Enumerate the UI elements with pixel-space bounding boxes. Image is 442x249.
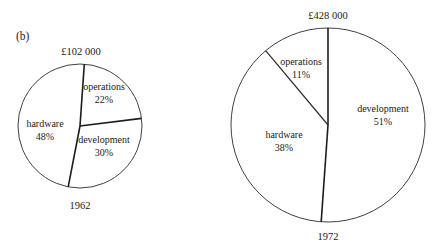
figure-panel: (b) £102 000 operations 22% development … bbox=[0, 0, 442, 249]
slice-name-operations-1972: operations bbox=[280, 56, 322, 67]
slice-pct-development-1962: 30% bbox=[95, 147, 113, 158]
slice-pct-hardware-1962: 48% bbox=[36, 131, 54, 142]
slice-name-operations-1962: operations bbox=[83, 81, 125, 92]
slice-pct-development-1972: 51% bbox=[374, 116, 392, 127]
slice-name-development-1972: development bbox=[357, 103, 409, 114]
slice-name-hardware-1962: hardware bbox=[26, 118, 64, 129]
slice-name-development-1962: development bbox=[78, 134, 130, 145]
panel-tag-label: (b) bbox=[16, 30, 30, 43]
pie-chart-1972: £428 000 operations 11% development 51% … bbox=[231, 10, 425, 242]
slice-divider-operations-development-1962 bbox=[80, 118, 142, 126]
slice-label-operations-1962: operations 22% bbox=[83, 81, 125, 105]
slice-divider-operations-start-1962 bbox=[80, 64, 84, 126]
slice-label-development-1972: development 51% bbox=[357, 103, 409, 127]
slice-pct-hardware-1972: 38% bbox=[275, 142, 293, 153]
pie-charts-figure: (b) £102 000 operations 22% development … bbox=[0, 0, 442, 249]
year-label-1962: 1962 bbox=[70, 200, 91, 211]
slice-name-hardware-1972: hardware bbox=[265, 129, 303, 140]
slice-pct-operations-1972: 11% bbox=[292, 69, 310, 80]
total-label-1962: £102 000 bbox=[61, 46, 100, 57]
slice-label-hardware-1972: hardware 38% bbox=[265, 129, 303, 153]
slice-label-operations-1972: operations 11% bbox=[280, 56, 322, 80]
year-label-1972: 1972 bbox=[318, 231, 339, 242]
total-label-1972: £428 000 bbox=[308, 10, 347, 21]
slice-label-hardware-1962: hardware 48% bbox=[26, 118, 64, 142]
slice-divider-development-hardware-1972 bbox=[321, 125, 328, 222]
pie-chart-1962: £102 000 operations 22% development 30% … bbox=[18, 46, 142, 211]
slice-label-development-1962: development 30% bbox=[78, 134, 130, 158]
slice-pct-operations-1962: 22% bbox=[95, 94, 113, 105]
